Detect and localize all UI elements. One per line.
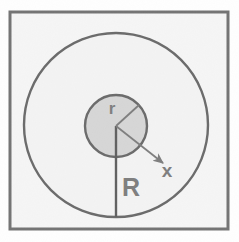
label-x: x (162, 160, 173, 181)
concentric-circles-diagram: r R x (0, 0, 239, 242)
label-r: r (109, 99, 116, 118)
label-R: R (122, 173, 140, 201)
figure-container: r R x (0, 0, 239, 242)
